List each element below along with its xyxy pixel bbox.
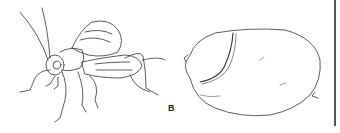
panel-label-b: B — [168, 103, 175, 113]
divider-line — [334, 0, 336, 126]
egg-drawing — [0, 0, 340, 133]
figure: B — [0, 0, 340, 133]
